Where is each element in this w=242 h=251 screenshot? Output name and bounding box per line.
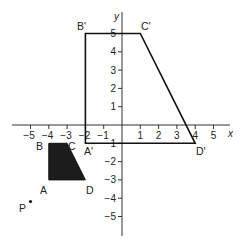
x-tick-label: 5 <box>211 130 217 141</box>
point-p <box>29 200 32 203</box>
x-tick-labels: −5 −4 −3 −2 −1 1 2 3 4 5 <box>23 130 216 141</box>
y-tick-label: −2 <box>105 156 117 167</box>
vertex-label-a-prime: A' <box>84 145 93 157</box>
x-tick-label: −5 <box>23 130 35 141</box>
vertex-label-d-prime: D' <box>196 145 206 157</box>
vertex-label-c: C <box>68 140 76 152</box>
point-label-p: P <box>19 202 26 214</box>
vertex-label-b: B <box>36 140 43 152</box>
vertex-label-b-prime: B' <box>77 20 86 32</box>
vertex-label-d: D <box>86 184 94 196</box>
y-tick-label: −3 <box>105 174 117 185</box>
y-tick-label: −4 <box>105 193 117 204</box>
coordinate-diagram: −5 −4 −3 −2 −1 1 2 3 4 5 x 5 4 3 2 1 −1 … <box>0 0 242 251</box>
x-tick-label: 1 <box>138 130 144 141</box>
vertex-label-a: A <box>40 184 47 196</box>
y-tick-label: 3 <box>110 65 116 76</box>
vertex-label-c-prime: C' <box>141 20 151 32</box>
x-tick-label: −4 <box>42 130 54 141</box>
y-tick-label: −5 <box>105 211 117 222</box>
x-tick-label: 3 <box>174 130 180 141</box>
x-axis-label: x <box>227 128 234 139</box>
y-tick-label: 1 <box>110 101 116 112</box>
y-tick-label: 4 <box>110 46 116 57</box>
y-tick-label: 2 <box>110 83 116 94</box>
y-axis-label: y <box>113 11 120 22</box>
x-tick-label: 2 <box>156 130 162 141</box>
diagram-svg: −5 −4 −3 −2 −1 1 2 3 4 5 x 5 4 3 2 1 −1 … <box>0 0 242 251</box>
